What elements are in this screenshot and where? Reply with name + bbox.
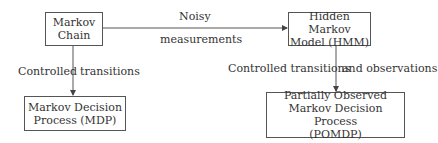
node-label-line: Process (MDP) xyxy=(34,114,117,127)
edge-label-controlled: Controlled xyxy=(18,65,77,78)
node-pomdp: Partially Observed Markov Decision Proce… xyxy=(266,92,405,138)
edge-label-and-observations: and observations xyxy=(342,62,437,75)
node-mdp: Markov Decision Process (MDP) xyxy=(24,96,126,131)
node-hidden-markov-model: Hidden Markov Model (HMM) xyxy=(288,12,371,46)
diagram-canvas: Markov Chain Hidden Markov Model (HMM) M… xyxy=(0,0,438,143)
node-label-line: Markov Decision Process xyxy=(267,102,404,128)
edge-label-transitions: transitions xyxy=(80,65,140,78)
node-label-line: Hidden Markov xyxy=(289,10,370,36)
edge-label-measurements: measurements xyxy=(160,33,242,46)
node-label-line: Model (HMM) xyxy=(290,36,369,49)
node-label-line: Partially Observed xyxy=(284,89,387,102)
node-label-line: Markov xyxy=(53,16,96,29)
edge-label-noisy: Noisy xyxy=(179,10,211,23)
node-label-line: Chain xyxy=(58,29,91,42)
edge-label-controlled-transitions: Controlled transitions xyxy=(228,62,350,75)
node-label-line: Markov Decision xyxy=(28,101,122,114)
node-label-line: (POMDP) xyxy=(309,128,362,141)
node-markov-chain: Markov Chain xyxy=(45,12,103,46)
